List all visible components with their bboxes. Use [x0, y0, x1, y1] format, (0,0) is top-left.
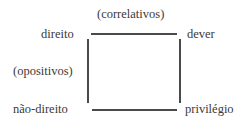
- right-connector-line: [179, 39, 181, 103]
- left-connector-line: [87, 39, 89, 103]
- bottom-connector-line: [92, 109, 177, 111]
- corner-bottom-right-label: privilégio: [185, 102, 234, 116]
- correlatives-label: (correlativos): [97, 7, 164, 21]
- top-connector-line: [91, 33, 177, 35]
- corner-top-left-label: direito: [41, 27, 74, 41]
- opposites-label: (opositivos): [13, 64, 73, 78]
- corner-bottom-left-label: não-direito: [13, 102, 68, 116]
- corner-top-right-label: dever: [187, 27, 215, 41]
